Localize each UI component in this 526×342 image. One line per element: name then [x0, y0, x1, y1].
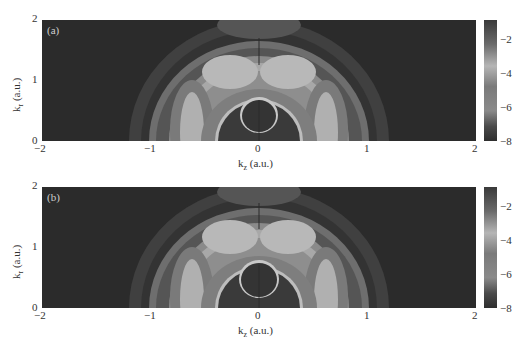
x-tick-2: 2 — [472, 310, 478, 321]
x-axis-label: kz (a.u.) — [238, 324, 273, 339]
colorbar-gradient — [484, 187, 497, 308]
colorbar — [484, 187, 497, 308]
y-axis-label: kr (a.u.) — [10, 78, 25, 112]
momentum-distribution-a — [42, 20, 476, 141]
colorbar-tick-neg2: −2 — [500, 201, 512, 212]
colorbar-tick-neg2: −2 — [500, 34, 512, 45]
colorbar-tick-neg4: −4 — [500, 68, 512, 79]
x-tick-neg2: −2 — [34, 310, 46, 321]
panel-b: (b) 2 1 0 −2 −1 0 1 2 kr (a.u.) kz (a.u.… — [0, 167, 526, 338]
heatmap-plot-a: (a) — [42, 20, 476, 141]
colorbar-tick-neg6: −6 — [500, 102, 512, 113]
x-tick-neg1: −1 — [144, 310, 156, 321]
x-tick-neg1: −1 — [144, 143, 156, 154]
x-tick-0: 0 — [255, 143, 261, 154]
colorbar-tick-neg8: −8 — [500, 136, 512, 147]
x-tick-1: 1 — [364, 143, 370, 154]
y-tick-2: 2 — [32, 13, 38, 24]
panel-label: (a) — [47, 24, 59, 36]
momentum-distribution-b — [42, 187, 476, 308]
panel-a: (a) 2 1 0 −2 −1 0 1 2 kr (a.u.) kz (a.u.… — [0, 0, 526, 171]
heatmap-plot-b: (b) — [42, 187, 476, 308]
colorbar-tick-neg8: −8 — [500, 303, 512, 314]
x-tick-neg2: −2 — [34, 143, 46, 154]
y-tick-2: 2 — [32, 180, 38, 191]
x-tick-0: 0 — [255, 310, 261, 321]
y-tick-1: 1 — [32, 241, 38, 252]
colorbar-gradient — [484, 20, 497, 141]
colorbar-tick-neg4: −4 — [500, 235, 512, 246]
panel-label: (b) — [47, 191, 60, 203]
colorbar-tick-neg6: −6 — [500, 269, 512, 280]
colorbar — [484, 20, 497, 141]
y-tick-1: 1 — [32, 74, 38, 85]
y-axis-label: kr (a.u.) — [10, 245, 25, 279]
x-tick-1: 1 — [364, 310, 370, 321]
x-tick-2: 2 — [472, 143, 478, 154]
